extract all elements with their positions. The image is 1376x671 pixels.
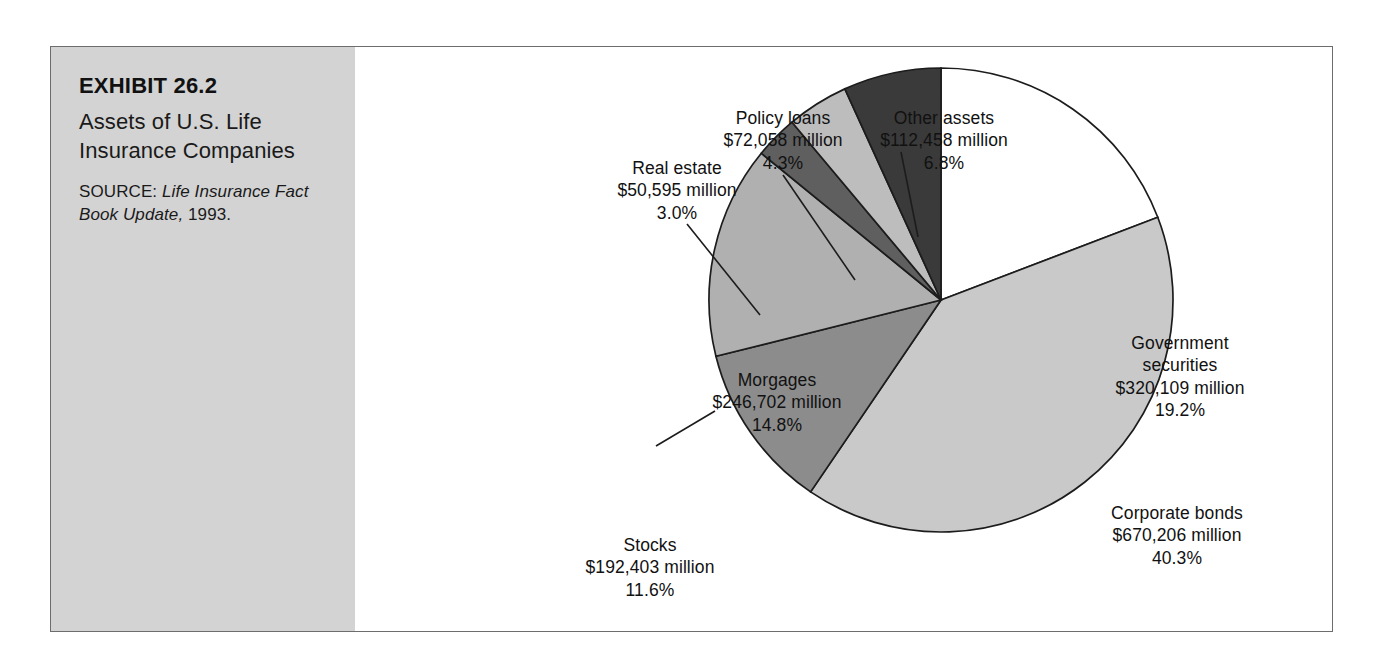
slice-label-percent: 11.6% [585,579,714,601]
slice-label-real-estate: Real estate $50,595 million 3.0% [617,157,736,224]
slice-label-line2: securities [1115,354,1244,376]
slice-label-government-securities: Government securities $320,109 million 1… [1115,332,1244,422]
slice-label-percent: 3.0% [617,202,736,224]
slice-label-value: $246,702 million [712,391,841,413]
pie-chart-area: Government securities $320,109 million 1… [355,47,1332,631]
slice-label-value: $320,109 million [1115,377,1244,399]
slice-label-line1: Morgages [712,369,841,391]
slice-label-percent: 19.2% [1115,399,1244,421]
slice-label-value: $50,595 million [617,179,736,201]
slice-label-value: $72,058 million [723,129,842,151]
slice-label-percent: 6.8% [880,152,1008,174]
source-year: 1993. [188,205,231,224]
slice-label-percent: 4.3% [723,152,842,174]
slice-label-percent: 14.8% [712,414,841,436]
slice-label-corporate-bonds: Corporate bonds $670,206 million 40.3% [1111,502,1243,569]
slice-label-line1: Government [1115,332,1244,354]
slice-label-percent: 40.3% [1111,547,1243,569]
source-label: SOURCE: [79,182,157,201]
slice-label-line1: Other assets [880,107,1008,129]
slice-label-value: $112,458 million [880,129,1008,151]
slice-label-value: $670,206 million [1111,524,1243,546]
exhibit-frame: EXHIBIT 26.2 Assets of U.S. Life Insuran… [50,46,1333,632]
slice-label-line1: Policy loans [723,107,842,129]
slice-label-line1: Real estate [617,157,736,179]
slice-label-policy-loans: Policy loans $72,058 million 4.3% [723,107,842,174]
slice-label-value: $192,403 million [585,556,714,578]
exhibit-number: EXHIBIT 26.2 [79,73,329,98]
slice-label-stocks: Stocks $192,403 million 11.6% [585,534,714,601]
leader-line-stocks [656,411,715,446]
slice-label-other-assets: Other assets $112,458 million 6.8% [880,107,1008,174]
slice-label-line1: Corporate bonds [1111,502,1243,524]
exhibit-title: Assets of U.S. Life Insurance Companies [79,108,329,165]
source-note: SOURCE: Life Insurance Fact Book Update,… [79,181,329,226]
slice-label-morgages: Morgages $246,702 million 14.8% [712,369,841,436]
slice-label-line1: Stocks [585,534,714,556]
caption-panel: EXHIBIT 26.2 Assets of U.S. Life Insuran… [51,47,355,631]
